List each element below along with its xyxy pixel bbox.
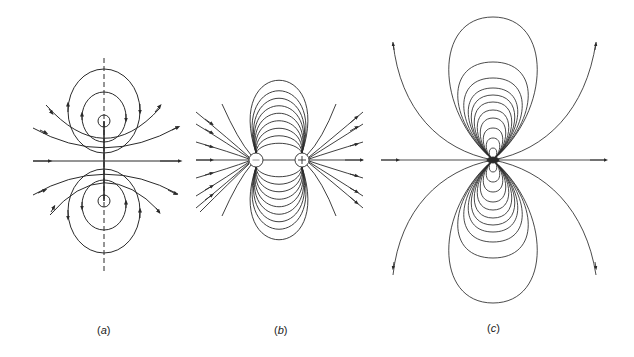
panel-b-electric-dipole — [196, 80, 363, 240]
panel-label-a: (a) — [97, 324, 110, 336]
panel-c-point-dipole — [381, 17, 606, 303]
panel-label-b: (b) — [274, 324, 287, 336]
panel-label-c: (c) — [487, 322, 500, 334]
field-lines-figure — [0, 0, 634, 357]
panel-a-current-loop — [33, 58, 180, 272]
